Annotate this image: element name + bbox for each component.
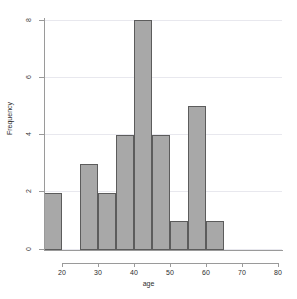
histogram-bar bbox=[116, 135, 134, 250]
y-tick-label-6: 6 bbox=[24, 70, 34, 84]
histogram-bar bbox=[152, 135, 170, 250]
y-tick-label-0: 0 bbox=[24, 242, 34, 256]
x-tick-label-50: 50 bbox=[160, 268, 180, 277]
x-tick-60 bbox=[206, 263, 207, 267]
y-tick-0 bbox=[39, 249, 44, 250]
y-tick-label-4: 4 bbox=[24, 127, 34, 141]
y-tick-label-8: 8 bbox=[24, 13, 34, 27]
histogram-figure: 8 6 4 2 0 Frequency 20 30 40 50 60 70 80… bbox=[0, 0, 297, 299]
x-axis-line bbox=[44, 250, 283, 251]
x-tick-label-80: 80 bbox=[268, 268, 288, 277]
histogram-bar bbox=[206, 221, 224, 250]
bar-series bbox=[44, 18, 282, 250]
x-tick-80 bbox=[278, 263, 279, 267]
y-tick-label-2: 2 bbox=[24, 184, 34, 198]
x-tick-label-70: 70 bbox=[232, 268, 252, 277]
x-tick-label-30: 30 bbox=[88, 268, 108, 277]
y-tick-4 bbox=[39, 134, 44, 135]
y-axis-line bbox=[44, 18, 45, 251]
histogram-bar bbox=[98, 193, 116, 251]
histogram-bar bbox=[188, 106, 206, 250]
x-tick-70 bbox=[242, 263, 243, 267]
y-tick-8 bbox=[39, 20, 44, 21]
histogram-bar bbox=[134, 20, 152, 250]
x-tick-label-20: 20 bbox=[52, 268, 72, 277]
x-tick-20 bbox=[62, 263, 63, 267]
plot-area bbox=[44, 18, 282, 250]
x-axis-title: age bbox=[0, 280, 297, 287]
y-tick-6 bbox=[39, 77, 44, 78]
x-tick-50 bbox=[170, 263, 171, 267]
x-tick-30 bbox=[98, 263, 99, 267]
histogram-bar bbox=[44, 193, 62, 251]
histogram-bar bbox=[80, 164, 98, 250]
histogram-bar bbox=[170, 221, 188, 250]
x-tick-label-60: 60 bbox=[196, 268, 216, 277]
y-tick-2 bbox=[39, 191, 44, 192]
x-tick-label-40: 40 bbox=[124, 268, 144, 277]
y-axis-title: Frequency bbox=[6, 89, 13, 149]
x-tick-40 bbox=[134, 263, 135, 267]
